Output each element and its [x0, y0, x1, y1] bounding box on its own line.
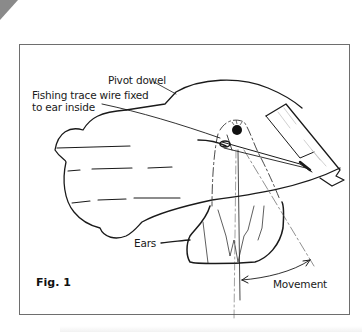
ears-label: Ears — [134, 237, 156, 249]
figure-caption: Fig. 1 — [36, 276, 71, 289]
muzzle-outline — [55, 110, 340, 238]
wire-label-line1: Fishing trace wire fixed — [32, 89, 149, 101]
wire-label-line2: to ear inside — [32, 101, 95, 113]
movement-label: Movement — [273, 278, 327, 290]
movement-arc — [242, 260, 310, 280]
pivot-dowel-dot — [232, 125, 242, 135]
pivot-dowel-label: Pivot dowel — [108, 74, 166, 86]
board — [266, 104, 344, 186]
wire — [222, 142, 312, 172]
